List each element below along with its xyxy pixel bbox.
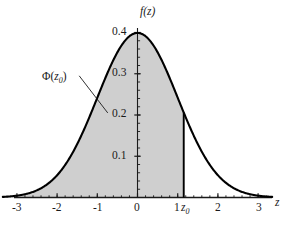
figure-canvas: 0.4 0.3 0.2 0.1 -3 -2 -1 0 1 2 3 z0 f(z)… xyxy=(0,0,290,235)
x-tick-label-neg2: -2 xyxy=(52,202,62,214)
phi-suffix: ) xyxy=(63,70,67,82)
y-tick-label-0-1: 0.1 xyxy=(112,150,126,162)
x-tick-label-3: 3 xyxy=(256,202,262,214)
y-tick-label-0-3: 0.3 xyxy=(112,67,126,79)
phi-z0-annotation-label: Φ(z0) xyxy=(42,71,67,85)
x-axis-title: z xyxy=(275,197,279,209)
shaded-area-group xyxy=(3,33,184,198)
x-tick-label-0: 0 xyxy=(134,202,140,214)
z0-axis-label: z0 xyxy=(181,202,189,216)
y-tick-label-0-4: 0.4 xyxy=(112,26,126,38)
x-tick-label-1: 1 xyxy=(174,202,180,214)
y-tick-label-0-2: 0.2 xyxy=(112,108,126,120)
normal-distribution-plot xyxy=(0,0,290,235)
phi-prefix: Φ( xyxy=(42,70,54,82)
z0-subscript: 0 xyxy=(185,207,189,216)
cumulative-area-fill xyxy=(3,33,184,198)
x-tick-label-neg3: -3 xyxy=(12,202,22,214)
x-tick-label-neg1: -1 xyxy=(93,202,103,214)
x-tick-label-2: 2 xyxy=(215,202,221,214)
y-axis-title: f(z) xyxy=(140,6,155,18)
